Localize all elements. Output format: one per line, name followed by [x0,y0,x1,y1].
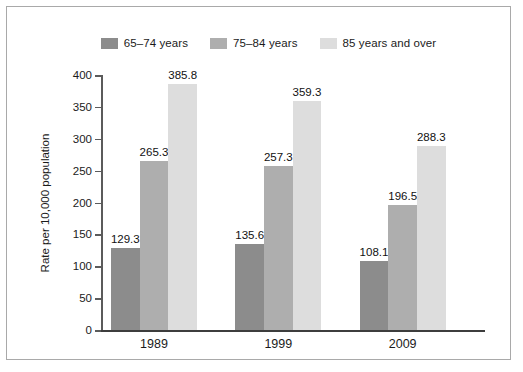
legend-label-65-74: 65–74 years [124,37,188,49]
y-axis-tick [95,234,101,236]
bar-value-label: 135.6 [235,229,264,241]
x-axis-category-label-2009: 2009 [360,337,446,351]
bar-group-1999: 135.6257.3359.3 [235,75,321,330]
y-axis-tick [95,171,101,173]
y-axis-title: Rate per 10,000 population [37,75,53,330]
bar-value-label: 385.8 [168,69,197,81]
y-axis-tick-label: 100 [73,260,92,272]
legend-label-85-over: 85 years and over [343,37,437,49]
y-axis-tick-label: 50 [79,292,92,304]
bar-1999-series-1: 135.6 [235,75,264,330]
bar-2009-series-2: 196.5 [388,75,417,330]
y-axis-tick-label: 150 [73,228,92,240]
bar-1999-series-2: 257.3 [264,75,293,330]
bar-1989-series-2: 265.3 [140,75,169,330]
bar-value-label: 288.3 [417,131,446,143]
bar-rect [264,166,293,330]
legend-swatch-65-74 [101,38,118,49]
legend-swatch-85-over [320,38,337,49]
y-axis-tick-label: 350 [73,101,92,113]
bar-value-label: 196.5 [388,190,417,202]
y-axis-tick [95,266,101,268]
bar-rect [293,101,322,330]
bar-1999-series-3: 359.3 [293,75,322,330]
y-axis-title-text: Rate per 10,000 population [39,133,51,272]
bar-rect [111,248,140,330]
bar-2009-series-3: 288.3 [417,75,446,330]
legend-item-65-74: 65–74 years [101,37,188,49]
y-axis-tick [95,330,101,332]
x-axis-category-label-1999: 1999 [235,337,321,351]
bar-group-2009: 108.1196.5288.3 [360,75,446,330]
chart-legend: 65–74 years 75–84 years 85 years and ove… [7,37,523,49]
bar-value-label: 257.3 [264,151,293,163]
bar-rect [168,84,197,330]
y-axis-tick [95,298,101,300]
bar-rect [235,244,264,330]
legend-item-75-84: 75–84 years [210,37,297,49]
y-axis-tick [95,75,101,77]
y-axis-tick-label: 300 [73,133,92,145]
y-axis-tick-label: 0 [86,324,92,336]
y-axis-tick-label: 200 [73,197,92,209]
chart-frame: 65–74 years 75–84 years 85 years and ove… [6,6,511,360]
y-axis-tick [95,203,101,205]
bar-rect [388,205,417,330]
legend-label-75-84: 75–84 years [233,37,297,49]
y-axis-tick [95,107,101,109]
bar-value-label: 129.3 [111,233,140,245]
legend-swatch-75-84 [210,38,227,49]
bar-rect [417,146,446,330]
plot-area: 050100150200250300350400129.3265.3385.81… [101,75,484,330]
y-axis-tick-label: 400 [73,69,92,81]
bar-rect [140,161,169,330]
bar-value-label: 359.3 [293,86,322,98]
x-axis-category-label-1989: 1989 [111,337,197,351]
bar-value-label: 108.1 [360,246,389,258]
bar-2009-series-1: 108.1 [360,75,389,330]
bar-rect [360,261,389,330]
bar-value-label: 265.3 [140,146,169,158]
y-axis-tick [95,139,101,141]
bar-1989-series-3: 385.8 [168,75,197,330]
legend-item-85-over: 85 years and over [320,37,437,49]
x-axis-line [101,330,485,332]
y-axis-tick-label: 250 [73,165,92,177]
bar-group-1989: 129.3265.3385.8 [111,75,197,330]
bar-1989-series-1: 129.3 [111,75,140,330]
